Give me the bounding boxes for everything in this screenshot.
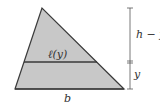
base-label: b — [64, 92, 71, 105]
dimension-marker — [127, 8, 133, 89]
triangle — [15, 8, 124, 89]
upper-height-label: h − y — [136, 28, 160, 41]
triangle-diagram: ℓ(y) h − y y b — [0, 0, 160, 106]
cross-section-label: ℓ(y) — [48, 48, 67, 61]
lower-height-label: y — [133, 68, 141, 81]
